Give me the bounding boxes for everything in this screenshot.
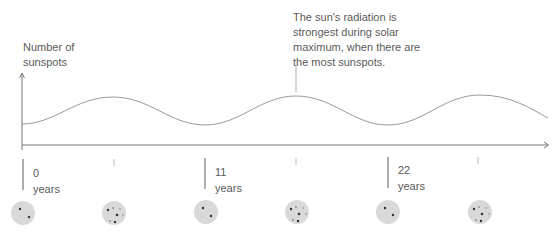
sunspot-cycle-diagram [0, 0, 552, 246]
marker-unit: years [215, 180, 242, 196]
y-axis-label-line: Number of [23, 40, 74, 55]
annotation-line: maximum, when there are [293, 40, 420, 55]
sun-minimum-icon [194, 200, 218, 224]
y-axis-label-line: sunspots [23, 55, 74, 70]
sunspot-curve [22, 95, 548, 125]
marker-value: 22 [398, 162, 425, 178]
marker-value: 0 [33, 165, 60, 181]
annotation-line: the most sunspots. [293, 55, 420, 70]
sun-maximum-icon [102, 201, 126, 225]
sun-maximum-icon [285, 200, 309, 224]
annotation-line: The sun's radiation is [293, 10, 420, 25]
sun-minimum-icon [11, 201, 35, 225]
marker-label-0: 0 years [33, 165, 60, 197]
y-axis-label: Number of sunspots [23, 40, 74, 70]
annotation-text: The sun's radiation is strongest during … [293, 10, 420, 70]
sun-maximum-icon [468, 200, 492, 224]
annotation-line: strongest during solar [293, 25, 420, 40]
marker-unit: years [398, 178, 425, 194]
marker-unit: years [33, 181, 60, 197]
sun-minimum-icon [376, 200, 400, 224]
marker-label-11: 11 years [215, 164, 242, 196]
marker-label-22: 22 years [398, 162, 425, 194]
marker-value: 11 [215, 164, 242, 180]
